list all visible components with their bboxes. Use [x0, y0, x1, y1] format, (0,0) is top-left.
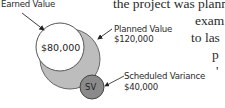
earned-value-amount: $80,000 [41, 42, 80, 53]
scheduled-variance-amount: $40,000 [124, 83, 158, 93]
scheduled-variance-label: Scheduled Variance [124, 72, 205, 82]
earned-value-label: Earned Value [1, 0, 55, 10]
scheduled-variance-abbr: SV [85, 82, 96, 92]
earned-value-arrow [22, 13, 44, 30]
planned-value-amount: $120,000 [114, 35, 153, 45]
scheduled-variance-arrow [105, 76, 124, 86]
planned-value-arrow [98, 29, 112, 39]
earned-value-diagram [0, 0, 225, 108]
